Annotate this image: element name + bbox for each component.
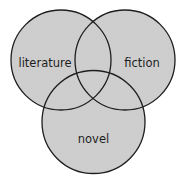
label-fiction: fiction (124, 56, 160, 70)
label-literature: literature (18, 56, 71, 70)
venn-fills (11, 10, 175, 174)
venn-diagram: literature fiction novel (0, 0, 186, 186)
label-novel: novel (78, 132, 109, 146)
